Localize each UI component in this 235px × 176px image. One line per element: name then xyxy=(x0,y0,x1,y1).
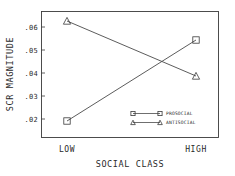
y-tick-label: .06 xyxy=(24,24,38,32)
series-antisocial xyxy=(63,17,199,79)
y-tick-label: .05 xyxy=(24,47,38,55)
y-axis-title: SCR MAGNITUDE xyxy=(5,37,15,111)
x-category-label-high: HIGH xyxy=(185,145,207,154)
chart-canvas: .06 .05 .04 .03 .02 SCR MAGNITUDE LOW HI… xyxy=(0,0,235,176)
legend-label-antisocial: ANTISOCIAL xyxy=(166,120,196,125)
data-point-marker-triangle xyxy=(63,17,70,24)
chart-legend: PROSOCIAL ANTISOCIAL xyxy=(131,111,196,125)
series-prosocial-line xyxy=(67,40,196,121)
legend-entry-antisocial: ANTISOCIAL xyxy=(131,120,196,125)
y-tick-label: .02 xyxy=(24,116,38,124)
legend-entry-prosocial: PROSOCIAL xyxy=(131,111,193,116)
y-tick-label: .04 xyxy=(24,70,38,78)
series-antisocial-line xyxy=(67,21,196,76)
chart-figure: .06 .05 .04 .03 .02 SCR MAGNITUDE LOW HI… xyxy=(0,0,235,176)
y-axis-ticks xyxy=(42,27,46,119)
x-axis-title: SOCIAL CLASS xyxy=(96,159,165,169)
x-category-label-low: LOW xyxy=(59,145,75,154)
legend-label-prosocial: PROSOCIAL xyxy=(166,111,193,116)
y-tick-label: .03 xyxy=(24,93,38,101)
